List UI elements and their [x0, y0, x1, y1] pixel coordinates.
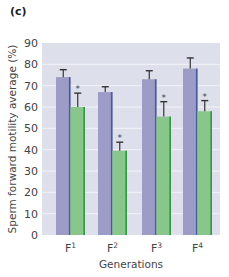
x-tick-label: F2	[107, 241, 118, 255]
y-axis-title: Sperm forward motility average (%)	[6, 45, 18, 234]
y-tick-label: 20	[24, 186, 38, 199]
y-tick-label: 10	[24, 208, 38, 221]
bar-control-4	[183, 69, 198, 235]
bar-control-1	[56, 77, 71, 235]
bar-edge	[69, 77, 71, 235]
x-axis-title: Generations	[99, 258, 163, 270]
x-tick-label: F4	[192, 241, 203, 255]
bar-chart: 0102030405060708090*F1*F2*F3*F4Generatio…	[0, 0, 229, 277]
significance-marker: *	[203, 92, 208, 102]
x-tick-label: F3	[151, 241, 162, 255]
bar-control-2	[98, 92, 113, 235]
bar-edge	[83, 107, 85, 235]
y-tick-label: 0	[31, 229, 38, 242]
y-tick-label: 50	[24, 122, 38, 135]
bar-edge	[111, 92, 113, 235]
y-tick-label: 60	[24, 101, 38, 114]
bar-edge	[155, 79, 157, 235]
bar-control-3	[142, 79, 157, 235]
bar-edge	[125, 151, 127, 235]
significance-marker: *	[162, 93, 167, 103]
bar-treated-2	[113, 151, 128, 235]
bar-edge	[210, 111, 212, 235]
significance-marker: *	[118, 133, 123, 143]
x-tick-label: F1	[65, 241, 76, 255]
y-tick-label: 30	[24, 165, 38, 178]
y-tick-label: 70	[24, 80, 38, 93]
bar-edge	[169, 117, 171, 235]
bar-edge	[196, 69, 198, 235]
bar-treated-4	[198, 111, 213, 235]
bar-treated-1	[71, 107, 86, 235]
y-tick-label: 80	[24, 58, 38, 71]
y-tick-label: 90	[24, 37, 38, 50]
significance-marker: *	[76, 84, 81, 94]
y-tick-label: 40	[24, 144, 38, 157]
bar-treated-3	[157, 117, 172, 235]
